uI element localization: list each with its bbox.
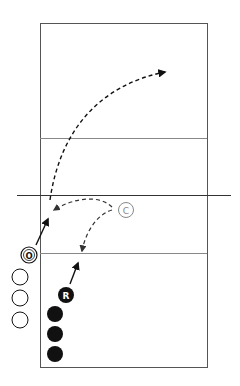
receiver-marker: R (58, 287, 74, 303)
movement-paths (36, 72, 165, 284)
receiver-label: R (63, 291, 70, 301)
light-player (12, 312, 28, 328)
toss-arrow (54, 199, 112, 210)
coach-marker: C (119, 203, 134, 218)
dark-player (47, 326, 63, 342)
dark-player (47, 346, 63, 362)
coach-label: C (123, 206, 129, 216)
offensive-player-marker: O (21, 247, 37, 263)
waiting-light-players (12, 269, 28, 328)
receiver-move-arrow (70, 263, 78, 284)
offensive-label: O (25, 251, 32, 261)
coach-to-receiver-arrow (82, 210, 112, 251)
waiting-dark-players (47, 306, 63, 362)
dark-player (47, 306, 63, 322)
offensive-move-arrow (36, 219, 48, 245)
court-diagram: C O R (0, 0, 240, 386)
light-player (12, 290, 28, 306)
set-arrow (50, 72, 165, 200)
light-player (12, 269, 28, 285)
